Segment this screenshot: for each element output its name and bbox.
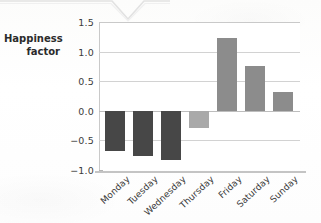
bar-tuesday[interactable]: [133, 111, 153, 157]
y-tick-label-neg1.0: −1.0: [70, 165, 94, 176]
bar-series: [99, 22, 300, 170]
y-tick-label-0.5: 0.5: [78, 76, 94, 87]
bar-saturday[interactable]: [245, 66, 265, 111]
bar-thursday[interactable]: [189, 111, 209, 128]
bar-wednesday[interactable]: [161, 111, 181, 160]
y-axis-title-line-2: factor: [4, 45, 60, 58]
y-tick-label-1.0: 1.0: [78, 46, 94, 57]
bar-friday[interactable]: [217, 38, 237, 111]
x-axis-tick-labels: Monday Tuesday Wednesday Thursday Friday…: [99, 172, 300, 222]
y-axis-tick-labels: 1.5 1.0 0.5 0.0 −0.5 −1.0: [60, 22, 94, 170]
bar-sunday[interactable]: [273, 92, 293, 111]
y-tick-label-neg0.5: −0.5: [70, 135, 94, 146]
plot-area: [99, 22, 300, 170]
x-tick-label-sunday: Sunday: [268, 174, 300, 205]
chart-screenshot: Happiness factor 1.5 1.0 0.5 0.0 −0.5 −1…: [0, 0, 321, 223]
y-axis-title-line-1: Happiness: [4, 32, 60, 45]
y-tick-label-1.5: 1.5: [78, 17, 94, 28]
y-tick-label-0.0: 0.0: [78, 105, 94, 116]
bar-monday[interactable]: [105, 111, 125, 151]
y-axis-title: Happiness factor: [4, 32, 60, 58]
